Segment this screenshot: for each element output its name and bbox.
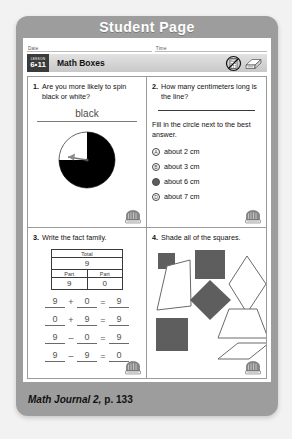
lesson-header-bar: LESSON 6•11 Math Boxes xyxy=(27,54,267,72)
measured-line xyxy=(158,110,255,111)
problem-3-number: 3. xyxy=(33,233,39,243)
choice-d-label: about 7 cm xyxy=(164,192,200,201)
shapes-canvas xyxy=(152,247,261,375)
reference-book-icon xyxy=(243,209,263,225)
choice-c[interactable]: C about 6 cm xyxy=(152,177,261,186)
problem-4-number: 4. xyxy=(152,233,158,243)
worksheet-sheet: Date Time LESSON 6•11 Math Boxes xyxy=(23,38,271,382)
choice-b[interactable]: B about 3 cm xyxy=(152,162,261,171)
total-label: Total xyxy=(52,249,123,257)
fact-3-op: – xyxy=(65,333,77,344)
part-value-left[interactable]: 9 xyxy=(52,277,88,289)
problem-4-prompt: 4. Shade all of the squares. xyxy=(152,233,261,243)
problem-grid: 1. Are you more likely to spin black or … xyxy=(27,76,267,379)
fact-1-a[interactable]: 9 xyxy=(45,296,65,308)
problem-2-text: How many centimeters long is the line? xyxy=(161,82,261,102)
fact-1-b[interactable]: 0 xyxy=(77,296,97,308)
problem-1-prompt: 1. Are you more likely to spin black or … xyxy=(33,82,141,102)
problem-1-number: 1. xyxy=(33,82,39,102)
choice-c-bubble[interactable]: C xyxy=(152,178,160,186)
fact-3-c[interactable]: 9 xyxy=(109,332,129,344)
date-field[interactable]: Date xyxy=(27,41,152,52)
outlined-trapezoid-right[interactable] xyxy=(218,309,266,338)
page-title: Math Boxes xyxy=(57,58,105,68)
problem-1-cell: 1. Are you more likely to spin black or … xyxy=(28,77,147,228)
fact-3-b[interactable]: 0 xyxy=(77,332,97,344)
reference-book-icon xyxy=(123,360,143,376)
reference-book-icon xyxy=(123,209,143,225)
part-label-left: Part xyxy=(52,269,88,277)
date-label: Date xyxy=(28,46,39,51)
problem-1-answer-line[interactable]: black xyxy=(37,108,137,122)
footer-journal: Math Journal 2, xyxy=(28,394,101,405)
problem-2-number: 2. xyxy=(152,82,158,102)
problem-1-text: Are you more likely to spin black or whi… xyxy=(42,82,141,102)
fact-1-op: + xyxy=(65,297,77,308)
fact-1-eq: = xyxy=(97,297,109,308)
lesson-number: 6•11 xyxy=(30,61,46,69)
shapes-group xyxy=(152,247,266,375)
fact-row-2: 0 + 9 = 9 xyxy=(36,313,138,326)
time-label: Time xyxy=(156,46,167,51)
header-icon-group xyxy=(225,54,264,72)
table-row: 9 xyxy=(52,257,123,269)
choice-a-bubble[interactable]: A xyxy=(152,148,160,156)
problem-2-cell: 2. How many centimeters long is the line… xyxy=(147,77,266,228)
problem-4-text: Shade all of the squares. xyxy=(161,233,261,243)
problem-2-instruction: Fill in the circle next to the best answ… xyxy=(152,120,261,140)
table-row: Total xyxy=(52,249,123,257)
outlined-flat-rhombus[interactable] xyxy=(218,343,266,359)
table-row: 9 0 xyxy=(52,277,123,289)
fact-row-1: 9 + 0 = 9 xyxy=(36,295,138,308)
fact-4-a[interactable]: 9 xyxy=(45,350,65,362)
choice-a-label: about 2 cm xyxy=(164,147,200,156)
problem-2-choices: A about 2 cm B about 3 cm C about 6 cm D… xyxy=(152,147,261,201)
problem-3-cell: 3. Write the fact family. Total 9 Part P… xyxy=(28,228,147,379)
problem-3-prompt: 3. Write the fact family. xyxy=(33,233,141,243)
fact-4-op: – xyxy=(65,351,77,362)
fact-row-3: 9 – 0 = 9 xyxy=(36,331,138,344)
reference-book-icon xyxy=(243,360,263,376)
problem-2-prompt: 2. How many centimeters long is the line… xyxy=(152,82,261,102)
total-value[interactable]: 9 xyxy=(52,257,123,269)
student-page-card: Student Page Date Time LESSON 6•11 Math … xyxy=(16,16,278,416)
footer-page: p. 133 xyxy=(104,394,132,405)
table-row: Part Part xyxy=(52,269,123,277)
lesson-badge: LESSON 6•11 xyxy=(27,54,49,72)
large-shaded-square[interactable] xyxy=(195,250,225,279)
choice-d[interactable]: D about 7 cm xyxy=(152,192,261,201)
choice-b-bubble[interactable]: B xyxy=(152,163,160,171)
probability-spinner-icon xyxy=(56,129,118,191)
outlined-rhombus-tall[interactable] xyxy=(229,256,266,313)
no-calculator-icon xyxy=(225,55,242,72)
problem-1-answer: black xyxy=(75,108,98,119)
fact-2-op: + xyxy=(65,315,77,326)
fact-3-a[interactable]: 9 xyxy=(45,332,65,344)
bottom-shaded-square[interactable] xyxy=(156,318,188,351)
pencil-sharpener-icon xyxy=(244,55,264,72)
part-label-right: Part xyxy=(87,269,123,277)
fact-4-eq: = xyxy=(97,351,109,362)
fact-2-b[interactable]: 9 xyxy=(77,314,97,326)
banner-title: Student Page xyxy=(16,16,278,38)
fact-family-table: Total 9 Part Part 9 0 xyxy=(51,249,123,290)
footer: Math Journal 2, p. 133 xyxy=(16,382,278,416)
fact-2-c[interactable]: 9 xyxy=(109,314,129,326)
shaded-diamond[interactable] xyxy=(190,280,231,320)
fact-3-eq: = xyxy=(97,333,109,344)
fact-family-equations: 9 + 0 = 9 0 + 9 = 9 9 – xyxy=(36,295,138,362)
fact-1-c[interactable]: 9 xyxy=(109,296,129,308)
choice-b-label: about 3 cm xyxy=(164,162,200,171)
problem-3-text: Write the fact family. xyxy=(42,233,141,243)
spinner-wrapper xyxy=(33,129,141,191)
problem-4-cell: 4. Shade all of the squares. xyxy=(147,228,266,379)
date-time-row: Date Time xyxy=(27,41,267,52)
time-field[interactable]: Time xyxy=(155,41,267,52)
choice-c-label: about 6 cm xyxy=(164,177,200,186)
fact-2-eq: = xyxy=(97,315,109,326)
fact-4-b[interactable]: 9 xyxy=(77,350,97,362)
choice-a[interactable]: A about 2 cm xyxy=(152,147,261,156)
part-value-right[interactable]: 0 xyxy=(87,277,123,289)
fact-2-a[interactable]: 0 xyxy=(45,314,65,326)
choice-d-bubble[interactable]: D xyxy=(152,193,160,201)
